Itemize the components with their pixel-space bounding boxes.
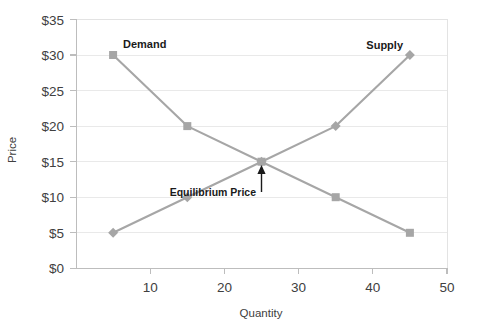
supply-demand-chart: $35 $30 $25 $20 $15 $10 $5 $0 10 20 30 4… xyxy=(0,0,480,331)
y-axis-ticks xyxy=(70,20,76,269)
y-axis-tick-label: $5 xyxy=(49,226,64,241)
supply-series-label: Supply xyxy=(366,39,404,51)
y-axis-tick-label: $10 xyxy=(41,190,64,205)
equilibrium-price-annotation: Equilibrium Price xyxy=(170,186,257,198)
demand-marker-point xyxy=(332,193,340,201)
demand-marker-point xyxy=(109,51,117,59)
x-axis-ticks xyxy=(150,268,447,274)
chart-canvas: $35 $30 $25 $20 $15 $10 $5 $0 10 20 30 4… xyxy=(0,0,480,331)
y-axis-tick-label: $0 xyxy=(49,261,64,276)
x-axis-tick-label: 10 xyxy=(143,280,158,295)
y-axis-tick-label: $15 xyxy=(41,155,64,170)
y-axis-tick-label: $25 xyxy=(41,84,64,99)
x-axis-tick-label: 50 xyxy=(439,280,454,295)
plot-area-background xyxy=(76,19,447,268)
x-axis-tick-label: 40 xyxy=(365,280,380,295)
demand-marker-point xyxy=(406,229,414,237)
y-axis-title: Price xyxy=(6,137,18,163)
x-axis-tick-label: 20 xyxy=(217,280,232,295)
y-axis-tick-label: $35 xyxy=(41,13,64,28)
y-axis-tick-label: $30 xyxy=(41,48,64,63)
x-axis-title: Quantity xyxy=(240,307,283,319)
demand-series-label: Demand xyxy=(123,38,166,50)
y-axis-tick-label: $20 xyxy=(41,119,64,134)
x-axis-tick-label: 30 xyxy=(291,280,306,295)
demand-marker-point xyxy=(183,122,191,130)
